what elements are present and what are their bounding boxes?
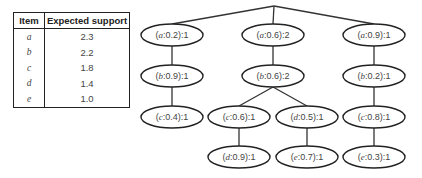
node-label: (b:0.9):1 (155, 71, 188, 81)
tree-node-n5: (b:0.6):2 (242, 65, 304, 87)
tree-edge (274, 6, 374, 24)
node-label: (d:0.9):1 (222, 152, 255, 162)
node-label: (c:0.4):1 (156, 112, 189, 122)
uf-tree-diagram: (a:0.2):1(b:0.9):1(c:0.4):1(a:0.6):2(b:0… (0, 0, 422, 178)
tree-node-n8: (d:0.5):1 (276, 106, 338, 128)
node-label: (a:0.2):1 (155, 30, 188, 40)
tree-edge (239, 87, 273, 106)
tree-node-n13: (e:0.3):1 (343, 146, 405, 168)
node-label: (b:0.2):1 (357, 71, 390, 81)
tree-node-n7: (d:0.9):1 (208, 146, 270, 168)
tree-edge (172, 6, 274, 24)
node-label: (b:0.6):2 (256, 71, 289, 81)
tree-node-n11: (b:0.2):1 (343, 65, 405, 87)
tree-node-n10: (a:0.9):1 (343, 24, 405, 46)
tree-node-n1: (a:0.2):1 (141, 24, 203, 46)
node-label: (a:0.9):1 (357, 30, 390, 40)
tree-node-n4: (a:0.6):2 (242, 24, 304, 46)
tree-nodes: (a:0.2):1(b:0.9):1(c:0.4):1(a:0.6):2(b:0… (141, 24, 405, 168)
tree-edge (273, 87, 307, 106)
tree-node-n2: (b:0.9):1 (141, 65, 203, 87)
tree-node-n6: (c:0.6):1 (208, 106, 270, 128)
tree-node-n9: (e:0.7):1 (276, 146, 338, 168)
node-label: (c:0.8):1 (358, 112, 391, 122)
node-label: (c:0.6):1 (223, 112, 256, 122)
tree-edge (273, 6, 274, 24)
tree-node-n12: (c:0.8):1 (343, 106, 405, 128)
tree-node-n3: (c:0.4):1 (141, 106, 203, 128)
node-label: (a:0.6):2 (256, 30, 289, 40)
node-label: (d:0.5):1 (290, 112, 323, 122)
node-label: (e:0.3):1 (358, 152, 391, 162)
node-label: (e:0.7):1 (291, 152, 324, 162)
